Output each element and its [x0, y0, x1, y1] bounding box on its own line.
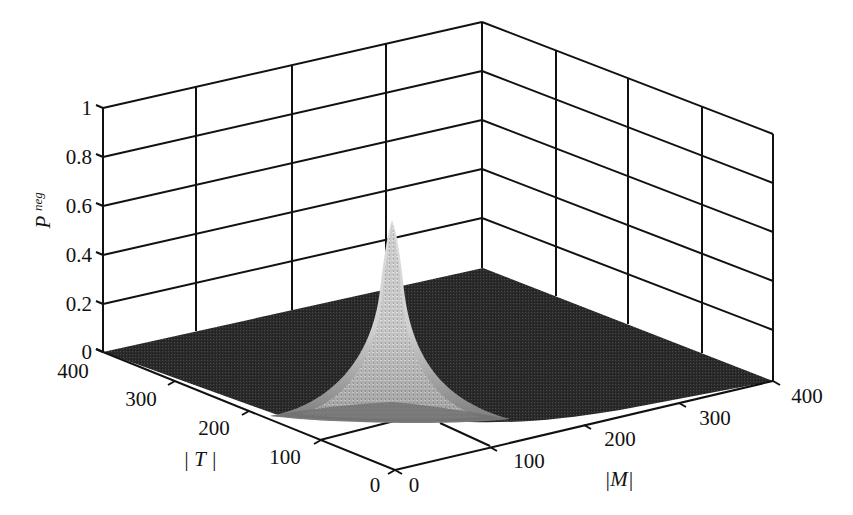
m-tick-300: 300 [699, 406, 731, 430]
m-tick-400: 400 [791, 384, 823, 408]
m-tick-200: 200 [604, 427, 636, 451]
z-tick-0-6: 0.6 [66, 194, 92, 218]
surface-plot: 1 0.8 0.6 0.4 0.2 0 P neg 400 300 200 10… [0, 0, 853, 515]
m-axis-label: |M| [604, 467, 633, 491]
z-axis-label: P neg [30, 192, 55, 230]
m-tick-100: 100 [513, 449, 545, 473]
t-tick-200: 200 [198, 416, 230, 440]
z-tick-0-2: 0.2 [66, 292, 92, 316]
z-tick-1: 1 [82, 96, 93, 120]
t-tick-100: 100 [269, 445, 301, 469]
z-tick-0-8: 0.8 [66, 145, 92, 169]
svg-text:P: P [31, 215, 55, 229]
svg-text:neg: neg [30, 192, 45, 211]
z-tick-labels: 1 0.8 0.6 0.4 0.2 0 [66, 96, 93, 364]
t-tick-300: 300 [125, 387, 157, 411]
t-tick-400: 400 [57, 359, 89, 383]
t-axis-label: | T | [183, 447, 216, 471]
z-axis-ticks [96, 105, 103, 352]
m-tick-0: 0 [409, 473, 420, 497]
t-tick-0: 0 [370, 473, 381, 497]
z-tick-0-4: 0.4 [66, 243, 93, 267]
